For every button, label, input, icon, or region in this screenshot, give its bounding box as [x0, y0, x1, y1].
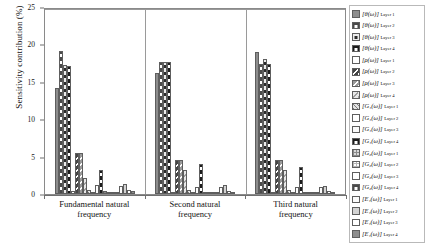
x-tick-mark — [145, 195, 146, 199]
plot-area — [44, 8, 346, 195]
y-tick-label: 20 — [28, 42, 36, 50]
legend-label: [ρ(ω)] Layer 4 — [362, 92, 395, 99]
legend-swatch — [352, 56, 360, 64]
legend-swatch — [352, 161, 360, 169]
legend-item[interactable]: [ρ(ω)] Layer 1 — [352, 54, 423, 66]
legend-label: [G₂(ω)] Layer 2 — [362, 161, 398, 168]
legend-item[interactable]: [G₂(ω)] Layer 1 — [352, 147, 423, 159]
legend-swatch — [352, 103, 360, 111]
bar-series-container — [45, 9, 345, 194]
legend-item[interactable]: [G₂(ω)] Layer 3 — [352, 170, 423, 182]
legend-item[interactable]: [ρ(ω)] Layer 3 — [352, 78, 423, 90]
legend-item[interactable]: [θ(ω)] Layer 3 — [352, 31, 423, 43]
legend-label: [θ(ω)] Layer 3 — [362, 34, 395, 41]
y-tick-label: 10 — [28, 116, 36, 124]
legend-swatch — [352, 114, 360, 122]
x-tick-label: Third naturalfrequency — [245, 200, 346, 219]
legend-item[interactable]: [G₁(ω)] Layer 2 — [352, 112, 423, 124]
legend-swatch — [352, 138, 360, 146]
legend-swatch — [352, 196, 360, 204]
bar — [331, 192, 335, 194]
legend-item[interactable]: [θ(ω)] Layer 1 — [352, 8, 423, 20]
x-tick-mark — [245, 195, 246, 199]
x-axis-line — [44, 195, 346, 196]
x-tick-label-line: frequency — [245, 210, 346, 220]
legend-item[interactable]: [G₂(ω)] Layer 4 — [352, 182, 423, 194]
legend-item[interactable]: [E₁(ω)] Layer 3 — [352, 217, 423, 229]
legend-item[interactable]: [G₁(ω)] Layer 1 — [352, 101, 423, 113]
legend-label: [ρ(ω)] Layer 3 — [362, 80, 395, 87]
legend-label: [θ(ω)] Layer 4 — [362, 45, 395, 52]
legend-item[interactable]: [E₁(ω)] Layer 2 — [352, 205, 423, 217]
legend-item[interactable]: [ρ(ω)] Layer 2 — [352, 66, 423, 78]
legend-item[interactable]: [G₁(ω)] Layer 4 — [352, 136, 423, 148]
y-axis: Sensitivity contribution (%) 0510152025 — [0, 0, 42, 196]
legend-label: [θ(ω)] Layer 1 — [362, 11, 395, 18]
x-tick-label-line: frequency — [145, 210, 246, 220]
x-tick-label: Fundamental naturalfrequency — [44, 200, 145, 219]
legend-swatch — [352, 33, 360, 41]
legend-label: [E₁(ω)] Layer 3 — [362, 219, 398, 226]
legend-swatch — [352, 126, 360, 134]
bar — [67, 66, 71, 194]
x-tick-mark — [44, 195, 45, 199]
bar — [231, 192, 235, 194]
legend-label: [E₁(ω)] Layer 4 — [362, 231, 398, 238]
y-tick-label: 25 — [28, 4, 36, 12]
legend-item[interactable]: [θ(ω)] Layer 4 — [352, 43, 423, 55]
bar — [167, 62, 171, 194]
legend-label: [E₁(ω)] Layer 1 — [362, 196, 398, 203]
legend-swatch — [352, 149, 360, 157]
x-tick-label-line: frequency — [44, 210, 145, 220]
x-tick-mark — [346, 195, 347, 199]
legend-label: [ρ(ω)] Layer 1 — [362, 57, 395, 64]
legend-label: [ρ(ω)] Layer 2 — [362, 68, 395, 75]
legend-label: [G₁(ω)] Layer 1 — [362, 103, 398, 110]
bar — [199, 164, 203, 194]
legend-label: [G₁(ω)] Layer 4 — [362, 138, 398, 145]
x-tick-label: Second naturalfrequency — [145, 200, 246, 219]
legend-swatch — [352, 230, 360, 238]
legend-swatch — [352, 45, 360, 53]
legend-item[interactable]: [ρ(ω)] Layer 4 — [352, 89, 423, 101]
legend-label: [G₂(ω)] Layer 1 — [362, 150, 398, 157]
y-tick-label: 5 — [31, 154, 35, 162]
legend-item[interactable]: [θ(ω)] Layer 2 — [352, 20, 423, 32]
legend-label: [E₁(ω)] Layer 2 — [362, 208, 398, 215]
legend-item[interactable]: [E₁(ω)] Layer 1 — [352, 194, 423, 206]
y-axis-title: Sensitivity contribution (%) — [14, 0, 24, 142]
y-tick-label: 15 — [28, 79, 36, 87]
legend-label: [G₂(ω)] Layer 4 — [362, 184, 398, 191]
legend-swatch — [352, 219, 360, 227]
legend-swatch — [352, 10, 360, 18]
bar — [267, 64, 271, 194]
legend-swatch — [352, 172, 360, 180]
bar — [299, 167, 303, 194]
legend-label: [G₁(ω)] Layer 2 — [362, 115, 398, 122]
legend-swatch — [352, 80, 360, 88]
legend-swatch — [352, 184, 360, 192]
legend-swatch — [352, 91, 360, 99]
bar — [99, 170, 103, 194]
legend-label: [θ(ω)] Layer 2 — [362, 22, 395, 29]
legend-swatch — [352, 207, 360, 215]
legend-label: [G₂(ω)] Layer 3 — [362, 173, 398, 180]
legend-item[interactable]: [G₁(ω)] Layer 3 — [352, 124, 423, 136]
legend-label: [G₁(ω)] Layer 3 — [362, 126, 398, 133]
legend-item[interactable]: [G₂(ω)] Layer 2 — [352, 159, 423, 171]
legend-swatch — [352, 68, 360, 76]
legend-swatch — [352, 22, 360, 30]
legend: [θ(ω)] Layer 1[θ(ω)] Layer 2[θ(ω)] Layer… — [349, 5, 425, 243]
y-tick-label: 0 — [31, 191, 35, 199]
bar — [131, 191, 135, 194]
legend-item[interactable]: [E₁(ω)] Layer 4 — [352, 228, 423, 240]
